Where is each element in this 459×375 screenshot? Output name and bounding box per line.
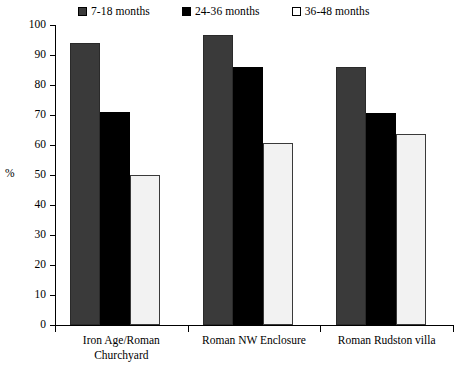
x-category-label-1: Roman NW Enclosure xyxy=(188,333,321,348)
y-tick-label-50: 50 xyxy=(0,169,46,181)
y-tick-label-30: 30 xyxy=(0,229,46,241)
bar-0-1 xyxy=(100,112,130,325)
y-tick-label-60: 60 xyxy=(0,139,46,151)
x-category-label-1-line-0: Roman NW Enclosure xyxy=(188,333,321,348)
x-category-label-0-line-1: Churchyard xyxy=(55,348,188,363)
y-tick-20 xyxy=(50,265,55,266)
y-tick-label-0: 0 xyxy=(0,319,46,331)
x-category-label-0: Iron Age/RomanChurchyard xyxy=(55,333,188,363)
legend-label-1: 24-36 months xyxy=(195,5,260,17)
x-category-label-2-line-0: Roman Rudston villa xyxy=(320,333,453,348)
x-tick-3 xyxy=(453,325,454,332)
y-tick-40 xyxy=(50,205,55,206)
legend-item-1: 24-36 months xyxy=(182,5,260,17)
bar-2-1 xyxy=(366,113,396,325)
y-tick-label-20: 20 xyxy=(0,259,46,271)
bar-1-0 xyxy=(203,35,233,325)
y-tick-10 xyxy=(50,295,55,296)
bar-2-2 xyxy=(396,134,426,325)
legend-label-0: 7-18 months xyxy=(91,5,150,17)
bar-1-2 xyxy=(263,143,293,325)
chart-legend: 7-18 months 24-36 months 36-48 months xyxy=(0,2,459,20)
bar-0-2 xyxy=(130,175,160,325)
bar-1-1 xyxy=(233,67,263,325)
y-tick-30 xyxy=(50,235,55,236)
y-tick-label-100: 100 xyxy=(0,19,46,31)
legend-swatch-white-icon xyxy=(292,7,301,16)
bar-2-0 xyxy=(336,67,366,325)
bar-chart: 7-18 months 24-36 months 36-48 months % … xyxy=(0,0,459,375)
y-tick-60 xyxy=(50,145,55,146)
y-tick-100 xyxy=(50,25,55,26)
x-tick-1 xyxy=(188,325,189,332)
y-tick-label-80: 80 xyxy=(0,79,46,91)
plot-area xyxy=(55,25,453,325)
x-axis-line xyxy=(55,325,453,326)
legend-label-2: 36-48 months xyxy=(305,5,370,17)
y-tick-label-90: 90 xyxy=(0,49,46,61)
bar-0-0 xyxy=(70,43,100,325)
legend-swatch-dark-gray-icon xyxy=(78,7,87,16)
x-tick-0 xyxy=(55,325,56,332)
y-tick-70 xyxy=(50,115,55,116)
y-tick-label-10: 10 xyxy=(0,289,46,301)
x-tick-2 xyxy=(320,325,321,332)
y-axis-line xyxy=(55,25,56,326)
y-tick-50 xyxy=(50,175,55,176)
legend-swatch-black-icon xyxy=(182,7,191,16)
x-category-label-group: Iron Age/RomanChurchyardRoman NW Enclosu… xyxy=(55,333,453,375)
x-category-label-2: Roman Rudston villa xyxy=(320,333,453,348)
y-tick-80 xyxy=(50,85,55,86)
y-tick-90 xyxy=(50,55,55,56)
legend-item-0: 7-18 months xyxy=(78,5,150,17)
y-tick-label-70: 70 xyxy=(0,109,46,121)
legend-item-2: 36-48 months xyxy=(292,5,370,17)
y-tick-label-40: 40 xyxy=(0,199,46,211)
x-category-label-0-line-0: Iron Age/Roman xyxy=(55,333,188,348)
